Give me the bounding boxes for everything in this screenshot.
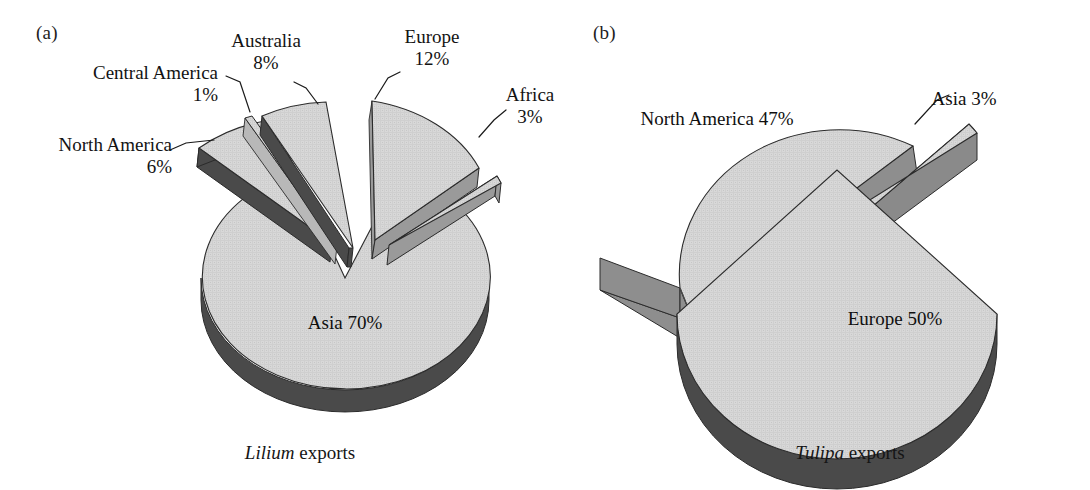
leader-central-america-a — [226, 76, 250, 112]
pie-b-graphic — [545, 0, 1090, 490]
leader-europe-a — [375, 72, 400, 99]
label-europe-a: Europe 12% — [384, 26, 480, 71]
label-central-america-a: Central America 1% — [0, 62, 218, 107]
label-north-america-b: North America 47% — [617, 108, 817, 131]
pie-chart-panel-a: (a) — [0, 0, 545, 490]
label-north-america-a: North America 6% — [0, 134, 172, 179]
leader-australia-a — [294, 82, 318, 104]
label-australia-a: Australia 8% — [212, 30, 320, 75]
label-asia-b: Asia 3% — [925, 88, 1003, 111]
label-europe-b: Europe 50% — [845, 308, 945, 331]
label-asia-a: Asia 70% — [300, 312, 390, 335]
caption-a: Lilium exports — [210, 442, 390, 464]
pie-chart-panel-b: (b) — [545, 0, 1090, 490]
figure-root: (a) — [0, 0, 1090, 490]
caption-b: Tulipa exports — [760, 442, 940, 464]
